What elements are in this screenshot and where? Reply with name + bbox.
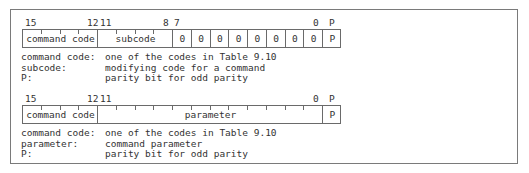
bit-label: 15 bbox=[25, 93, 36, 104]
field-p: P bbox=[322, 30, 342, 47]
field-command-code: command code bbox=[23, 106, 98, 123]
legend-row: P:parity bit for odd parity bbox=[21, 149, 277, 160]
bit-tick bbox=[78, 106, 79, 110]
legend-value: parity bit for odd parity bbox=[105, 72, 248, 83]
register-command-subcode: command codesubcode00000000P bbox=[22, 29, 341, 48]
bit-tick bbox=[41, 106, 42, 110]
legend-key: subcode: bbox=[21, 63, 105, 74]
bit-label: 15 bbox=[25, 17, 36, 28]
bit-tick bbox=[303, 30, 304, 34]
bit-tick bbox=[322, 30, 323, 34]
bit-tick bbox=[210, 106, 211, 110]
bit-tick bbox=[41, 30, 42, 34]
bit-label: 12 bbox=[87, 17, 98, 28]
bit-tick bbox=[285, 30, 286, 34]
bit-tick bbox=[210, 30, 211, 34]
bit-tick bbox=[266, 30, 267, 34]
field-0: 0 bbox=[172, 30, 192, 47]
field-0: 0 bbox=[303, 30, 323, 47]
legend-row: P:parity bit for odd parity bbox=[21, 73, 277, 84]
legend-key: command code: bbox=[21, 128, 105, 139]
field-0: 0 bbox=[247, 30, 267, 47]
bit-tick bbox=[191, 106, 192, 110]
bit-tick bbox=[60, 30, 61, 34]
bit-tick bbox=[191, 30, 192, 34]
bit-label: P bbox=[329, 17, 335, 28]
field-0: 0 bbox=[266, 30, 286, 47]
legend-key: P: bbox=[21, 73, 105, 84]
field-0: 0 bbox=[228, 30, 248, 47]
legend-key: command code: bbox=[21, 52, 105, 63]
bit-label: 7 bbox=[174, 17, 180, 28]
legend-value: one of the codes in Table 9.10 bbox=[105, 51, 277, 62]
bit-tick bbox=[303, 106, 304, 110]
legend-key: P: bbox=[21, 149, 105, 160]
bit-tick bbox=[172, 106, 173, 110]
field-command-code: command code bbox=[23, 30, 98, 47]
field-p: P bbox=[322, 106, 342, 123]
field-0: 0 bbox=[285, 30, 305, 47]
bit-tick bbox=[247, 106, 248, 110]
bit-tick bbox=[266, 106, 267, 110]
bit-tick bbox=[78, 30, 79, 34]
bit-tick bbox=[172, 30, 173, 34]
bit-tick bbox=[153, 106, 154, 110]
bit-label: 11 bbox=[100, 17, 111, 28]
bit-tick bbox=[60, 106, 61, 110]
bit-tick bbox=[247, 30, 248, 34]
bit-tick bbox=[322, 106, 323, 110]
bit-tick bbox=[116, 106, 117, 110]
bit-label: 8 bbox=[163, 17, 169, 28]
legend-key: parameter: bbox=[21, 139, 105, 150]
bit-tick bbox=[135, 30, 136, 34]
field-0: 0 bbox=[210, 30, 230, 47]
legend-value: modifying code for a command bbox=[105, 62, 265, 73]
bit-tick bbox=[285, 106, 286, 110]
bit-tick bbox=[228, 106, 229, 110]
field-legend: command code:one of the codes in Table 9… bbox=[21, 52, 277, 84]
register-command-parameter: command codeparameterP bbox=[22, 105, 341, 124]
bit-label: 0 bbox=[313, 17, 319, 28]
bit-tick bbox=[116, 30, 117, 34]
legend-value: one of the codes in Table 9.10 bbox=[105, 127, 277, 138]
legend-value: parity bit for odd parity bbox=[105, 148, 248, 159]
bit-label: 11 bbox=[100, 93, 111, 104]
bit-tick bbox=[135, 106, 136, 110]
bit-label: 12 bbox=[87, 93, 98, 104]
field-legend: command code:one of the codes in Table 9… bbox=[21, 128, 277, 160]
bit-label: P bbox=[329, 93, 335, 104]
bit-tick bbox=[228, 30, 229, 34]
field-0: 0 bbox=[191, 30, 211, 47]
bit-tick bbox=[153, 30, 154, 34]
bit-label: 0 bbox=[313, 93, 319, 104]
legend-value: command parameter bbox=[105, 138, 202, 149]
